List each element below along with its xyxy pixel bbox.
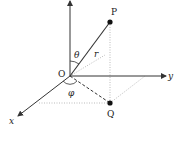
theta-label: θ bbox=[74, 50, 80, 60]
x-axis bbox=[18, 76, 70, 116]
point-p-label: P bbox=[111, 7, 117, 17]
y-axis-label: y bbox=[167, 71, 174, 81]
point-q-label: Q bbox=[107, 109, 114, 119]
q-to-y-axis-dotted-line bbox=[110, 76, 145, 103]
radius-label: r bbox=[94, 49, 99, 59]
x-axis-label: x bbox=[9, 116, 14, 126]
point-p-marker bbox=[107, 19, 112, 24]
phi-arc bbox=[63, 81, 77, 84]
projection-line-oq bbox=[70, 76, 110, 103]
diagram-canvas: P Q O r θ φ y x bbox=[0, 0, 184, 141]
theta-arc bbox=[70, 61, 79, 64]
axes bbox=[18, 1, 166, 116]
point-q-marker bbox=[107, 100, 112, 105]
radius-line-op bbox=[70, 22, 110, 76]
origin-label: O bbox=[58, 69, 65, 79]
spherical-coordinates-diagram: P Q O r θ φ y x bbox=[0, 0, 184, 141]
phi-label: φ bbox=[68, 88, 75, 98]
